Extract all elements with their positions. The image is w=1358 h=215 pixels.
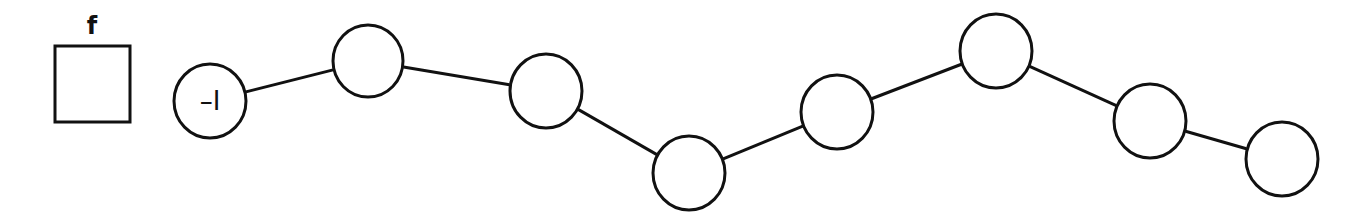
edge-n4-n5 [723,126,803,159]
f-box: f [55,12,130,122]
f-label: f [87,12,98,40]
node-circle [960,14,1032,88]
node-circle [1114,84,1186,158]
edge-n1-n2 [246,70,333,92]
edge-n5-n6 [872,64,962,98]
chain-diagram: f –I [0,0,1358,215]
node-4 [653,136,725,210]
node-circle [801,75,873,149]
node-circle [1246,122,1318,196]
node-7 [1114,84,1186,158]
node-6 [960,14,1032,88]
node-label: –I [200,86,221,116]
node-5 [801,75,873,149]
node-circle [510,54,582,128]
node-1: –I [174,64,246,138]
node-circle [653,136,725,210]
node-3 [510,54,582,128]
node-circle [333,25,403,97]
node-2 [333,25,403,97]
nodes-group: –I [174,14,1318,210]
f-square [55,46,130,122]
edge-n2-n3 [403,67,509,85]
node-8 [1246,122,1318,196]
edge-n7-n8 [1186,131,1247,149]
edge-n6-n7 [1030,66,1117,105]
edge-n3-n4 [578,109,657,154]
